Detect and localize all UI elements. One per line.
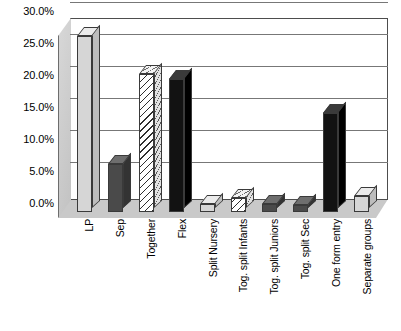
bar[interactable] xyxy=(354,196,369,212)
y-tick-label: 25.0% xyxy=(23,38,54,49)
x-axis-category-labels: LPSepTogetherFlexSplit NurseryTog. split… xyxy=(58,215,388,331)
bar-front-face xyxy=(169,79,184,212)
y-tick-label: 20.0% xyxy=(23,70,54,81)
bar-front-face xyxy=(293,205,308,212)
bar-front-face xyxy=(108,164,123,212)
bar[interactable] xyxy=(169,79,184,212)
chart-container: 30.0%25.0%20.0%15.0%10.0%5.0%0.0% LPSepT… xyxy=(0,0,401,331)
plot-area xyxy=(58,18,388,218)
bar-front-face xyxy=(354,196,369,212)
gridline xyxy=(70,2,388,3)
x-category-label: One form entry xyxy=(331,219,342,287)
y-tick-label: 10.0% xyxy=(23,134,54,145)
x-category-label: Split Nursery xyxy=(208,219,219,277)
bars-layer xyxy=(58,18,388,218)
x-category-label: Flex xyxy=(177,219,188,238)
bar-side-face xyxy=(184,68,192,208)
bar[interactable] xyxy=(323,113,338,212)
x-category-label: Sep xyxy=(115,219,126,237)
bar[interactable] xyxy=(139,74,154,212)
y-axis-tick-labels: 30.0%25.0%20.0%15.0%10.0%5.0%0.0% xyxy=(0,0,58,331)
bar[interactable] xyxy=(108,164,123,212)
x-category-label: LP xyxy=(84,219,95,232)
bar-front-face xyxy=(200,204,215,212)
bar-front-face xyxy=(231,198,246,212)
bar-front-face xyxy=(323,113,338,212)
x-category-label: Tog. split Juniors xyxy=(269,219,280,295)
bar[interactable] xyxy=(262,204,277,212)
bar-side-face xyxy=(92,25,100,208)
y-tick-label: 15.0% xyxy=(23,102,54,113)
bar[interactable] xyxy=(231,198,246,212)
x-category-label: Tog. split Infants xyxy=(238,219,249,292)
bar-front-face xyxy=(77,36,92,212)
y-tick-label: 30.0% xyxy=(23,6,54,17)
bar-side-face xyxy=(154,63,162,208)
x-category-label: Tog. split Sec xyxy=(300,219,311,279)
x-category-label: Together xyxy=(146,219,157,259)
bar[interactable] xyxy=(200,204,215,212)
bar-front-face xyxy=(262,204,277,212)
bar[interactable] xyxy=(77,36,92,212)
bar-side-face xyxy=(338,102,346,208)
bar-front-face xyxy=(139,74,154,212)
bar[interactable] xyxy=(293,205,308,212)
y-tick-label: 0.0% xyxy=(29,198,54,209)
y-tick-label: 5.0% xyxy=(29,166,54,177)
x-category-label: Separate groups xyxy=(362,219,373,294)
